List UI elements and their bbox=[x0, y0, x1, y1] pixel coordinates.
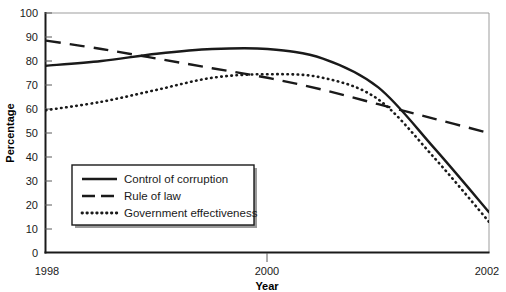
y-tick-label-90: 90 bbox=[26, 31, 38, 43]
line-chart: 100 90 80 70 60 50 40 30 20 10 0 Percent… bbox=[0, 0, 506, 292]
x-tick-label-2002: 2002 bbox=[475, 265, 499, 277]
legend-label-control-of-corruption: Control of corruption bbox=[124, 173, 228, 185]
legend-label-rule-of-law: Rule of law bbox=[124, 190, 182, 202]
x-tick-label-2000: 2000 bbox=[255, 265, 279, 277]
y-tick-label-80: 80 bbox=[26, 55, 38, 67]
legend: Control of corruption Rule of law Govern… bbox=[72, 165, 258, 228]
y-tick-label-100: 100 bbox=[20, 7, 38, 19]
y-tick-label-50: 50 bbox=[26, 127, 38, 139]
y-tick-label-70: 70 bbox=[26, 79, 38, 91]
chart-figure: 100 90 80 70 60 50 40 30 20 10 0 Percent… bbox=[0, 0, 506, 292]
x-axis-title: Year bbox=[255, 280, 279, 292]
y-tick-label-10: 10 bbox=[26, 223, 38, 235]
x-tick-label-1998: 1998 bbox=[35, 265, 59, 277]
y-tick-label-0: 0 bbox=[32, 247, 38, 259]
y-tick-label-60: 60 bbox=[26, 103, 38, 115]
legend-label-government-effectiveness: Government effectiveness bbox=[124, 207, 258, 219]
y-tick-label-30: 30 bbox=[26, 175, 38, 187]
y-axis-title: Percentage bbox=[4, 103, 16, 162]
y-tick-label-20: 20 bbox=[26, 199, 38, 211]
y-tick-label-40: 40 bbox=[26, 151, 38, 163]
